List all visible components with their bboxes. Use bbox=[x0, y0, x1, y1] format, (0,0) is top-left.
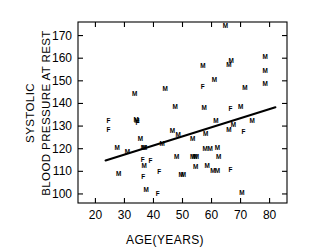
data-point-marker: M bbox=[205, 162, 210, 169]
data-point-marker: M bbox=[239, 189, 244, 196]
data-point-marker: M bbox=[142, 162, 147, 169]
y-tick-label: 170 bbox=[52, 29, 72, 43]
data-point-marker: M bbox=[132, 90, 137, 97]
data-point-marker: F bbox=[107, 117, 111, 124]
data-point-marker: M bbox=[116, 170, 121, 177]
data-point-marker: F bbox=[157, 168, 161, 175]
data-point-marker: F bbox=[141, 173, 145, 180]
y-tick-label: 110 bbox=[53, 164, 72, 178]
data-point-marker: M bbox=[216, 153, 221, 160]
data-point-marker: F bbox=[156, 190, 160, 197]
data-point-marker: M bbox=[250, 117, 255, 124]
data-point-marker: M bbox=[263, 80, 268, 87]
data-point-marker: M bbox=[263, 53, 268, 60]
data-point-marker: M bbox=[174, 153, 179, 160]
y-axis-label-line1: SYSTOLIC bbox=[24, 83, 36, 143]
data-point-marker: M bbox=[238, 103, 243, 110]
data-point-marker: M bbox=[190, 135, 195, 142]
data-point-marker: M bbox=[193, 163, 198, 170]
y-tick-label: 140 bbox=[52, 96, 72, 110]
data-point-marker: M bbox=[215, 144, 220, 151]
y-axis-label-line2: BLOOD PRESSURE AT REST bbox=[40, 30, 52, 196]
data-point-marker: M bbox=[162, 85, 167, 92]
data-point-marker: M bbox=[229, 57, 234, 64]
data-point-marker: F bbox=[136, 119, 140, 126]
data-point-marker: M bbox=[115, 144, 120, 151]
y-axis-ticks bbox=[78, 36, 287, 194]
data-point-marker: F bbox=[228, 166, 232, 173]
data-points: FFMMMMMMFMMMFMFMFFFMMMMMMMMMMMMMMFMMMMMM… bbox=[107, 22, 268, 197]
data-point-marker: F bbox=[149, 157, 153, 164]
data-point-marker: M bbox=[263, 67, 268, 74]
data-point-marker: F bbox=[107, 126, 111, 133]
data-point-marker: M bbox=[173, 103, 178, 110]
x-tick-label: 20 bbox=[89, 208, 103, 222]
y-tick-label: 160 bbox=[52, 51, 72, 65]
data-point-marker: M bbox=[242, 84, 247, 91]
data-point-marker: F bbox=[242, 128, 246, 135]
x-axis-tick-labels: 20304050607080 bbox=[89, 208, 277, 222]
y-tick-label: 150 bbox=[52, 74, 72, 88]
chart-figure: 20304050607080 100110120130140150160170 … bbox=[0, 0, 330, 252]
y-tick-label: 120 bbox=[52, 142, 72, 156]
x-tick-label: 30 bbox=[118, 208, 132, 222]
y-tick-label: 100 bbox=[52, 187, 72, 201]
data-point-marker: M bbox=[223, 22, 228, 29]
data-point-marker: M bbox=[207, 145, 212, 152]
x-tick-label: 50 bbox=[176, 208, 190, 222]
data-point-marker: M bbox=[212, 76, 217, 83]
data-point-marker: M bbox=[215, 167, 220, 174]
data-point-marker: M bbox=[144, 186, 149, 193]
y-axis-tick-labels: 100110120130140150160170 bbox=[52, 29, 72, 201]
data-point-marker: M bbox=[138, 135, 143, 142]
data-point-marker: M bbox=[181, 171, 186, 178]
data-point-marker: M bbox=[213, 117, 218, 124]
x-tick-label: 80 bbox=[263, 208, 277, 222]
data-point-marker: M bbox=[200, 62, 205, 69]
x-tick-label: 70 bbox=[234, 208, 248, 222]
x-tick-label: 40 bbox=[147, 208, 161, 222]
x-axis-label: AGE(YEARS) bbox=[0, 233, 330, 247]
x-tick-label: 60 bbox=[205, 208, 219, 222]
data-point-marker: M bbox=[170, 127, 175, 134]
data-point-marker: M bbox=[202, 104, 207, 111]
y-tick-label: 130 bbox=[52, 119, 72, 133]
data-point-marker: M bbox=[194, 153, 199, 160]
data-point-marker: F bbox=[228, 105, 232, 112]
data-point-marker: F bbox=[201, 83, 205, 90]
